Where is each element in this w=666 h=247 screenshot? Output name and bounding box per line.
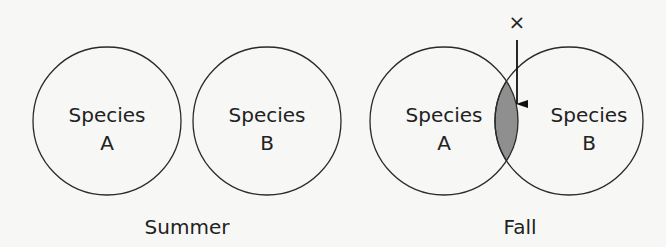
summer-panel: Species A Species B Summer [33, 47, 341, 239]
fall-species-a-label: Species [406, 103, 483, 127]
summer-species-a-letter: A [100, 131, 114, 155]
summer-species-b-label: Species [229, 103, 306, 127]
fall-species-a-letter: A [437, 131, 451, 155]
summer-caption: Summer [145, 215, 231, 239]
fall-species-b-label: Species [551, 103, 628, 127]
fall-species-b-letter: B [582, 131, 596, 155]
summer-species-a-label: Species [69, 103, 146, 127]
summer-species-b-letter: B [260, 131, 274, 155]
species-overlap-diagram: Species A Species B Summer Species A Spe… [0, 0, 666, 247]
cross-marker-icon: × [509, 10, 526, 34]
fall-panel: Species A Species B × Fall [370, 10, 643, 239]
fall-caption: Fall [503, 215, 536, 239]
